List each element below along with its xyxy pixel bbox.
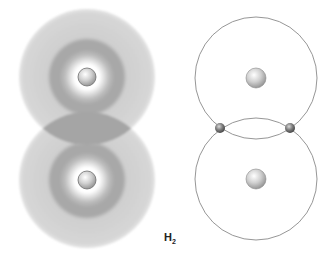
shared-electron-icon <box>215 123 225 133</box>
nucleus-icon <box>78 171 96 189</box>
shared-electron-icon <box>285 123 295 133</box>
nucleus-icon <box>246 169 266 189</box>
electron-cloud-panel <box>19 9 155 248</box>
h2-diagram <box>0 0 333 261</box>
orbit-model-panel <box>195 17 317 240</box>
nucleus-icon <box>78 68 96 86</box>
nucleus-icon <box>246 68 266 88</box>
molecule-label: H2 <box>164 231 176 245</box>
